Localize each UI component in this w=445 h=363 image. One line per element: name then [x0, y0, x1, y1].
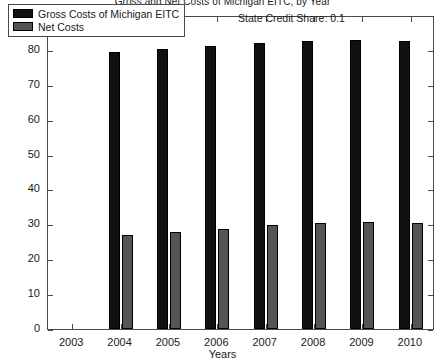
x-axis-label: Years	[0, 348, 445, 360]
chart-figure: Gross and Net Costs of Michigan EITC, by…	[0, 0, 445, 363]
x-tick-mark	[217, 324, 218, 329]
y-tick-mark	[48, 86, 53, 87]
y-tick-mark	[48, 295, 53, 296]
bar-gross-costs	[350, 40, 361, 329]
bar-net-costs	[412, 223, 423, 329]
y-tick-mark	[428, 260, 433, 261]
y-tick-label: 60	[6, 113, 40, 125]
plot-area	[47, 16, 434, 330]
legend-item-net: Net Costs	[13, 20, 179, 33]
legend-swatch-gross-icon	[13, 9, 33, 18]
y-tick-mark	[428, 295, 433, 296]
legend-swatch-net-icon	[13, 22, 33, 31]
y-tick-mark	[48, 190, 53, 191]
y-tick-label: 20	[6, 252, 40, 264]
bar-net-costs	[267, 225, 278, 329]
bar-gross-costs	[302, 41, 313, 329]
x-tick-label: 2003	[48, 336, 94, 348]
bar-net-costs	[122, 235, 133, 329]
y-tick-mark	[48, 260, 53, 261]
bar-gross-costs	[254, 43, 265, 329]
y-tick-mark	[428, 121, 433, 122]
x-tick-label: 2009	[338, 336, 384, 348]
x-tick-label: 2004	[97, 336, 143, 348]
bar-gross-costs	[205, 46, 216, 329]
y-tick-label: 70	[6, 78, 40, 90]
state-credit-share-annotation: State Credit Share: 0.1	[238, 12, 345, 24]
x-tick-mark	[217, 17, 218, 22]
y-tick-mark	[428, 16, 433, 17]
y-tick-mark	[48, 51, 53, 52]
x-tick-mark	[169, 324, 170, 329]
y-tick-mark	[428, 190, 433, 191]
y-tick-mark	[48, 330, 53, 331]
y-tick-label: 50	[6, 148, 40, 160]
legend-item-gross: Gross Costs of Michigan EITC	[13, 7, 179, 20]
x-tick-mark	[266, 324, 267, 329]
x-tick-mark	[121, 324, 122, 329]
y-tick-label: 0	[6, 322, 40, 334]
y-tick-mark	[428, 225, 433, 226]
x-tick-label: 2007	[242, 336, 288, 348]
y-tick-label: 10	[6, 287, 40, 299]
bar-net-costs	[218, 229, 229, 329]
bar-net-costs	[170, 232, 181, 329]
x-tick-mark	[411, 17, 412, 22]
y-tick-label: 30	[6, 217, 40, 229]
x-tick-mark	[362, 17, 363, 22]
y-tick-mark	[428, 156, 433, 157]
x-tick-label: 2008	[290, 336, 336, 348]
y-tick-mark	[428, 86, 433, 87]
x-tick-mark	[72, 324, 73, 329]
x-tick-mark	[314, 324, 315, 329]
chart-legend: Gross Costs of Michigan EITC Net Costs	[8, 4, 185, 37]
y-tick-mark	[428, 330, 433, 331]
bar-net-costs	[363, 222, 374, 329]
y-tick-mark	[48, 121, 53, 122]
x-tick-label: 2010	[387, 336, 433, 348]
y-tick-mark	[48, 156, 53, 157]
legend-label-net: Net Costs	[38, 21, 84, 33]
y-tick-mark	[48, 225, 53, 226]
x-tick-mark	[411, 324, 412, 329]
legend-label-gross: Gross Costs of Michigan EITC	[38, 8, 179, 20]
y-tick-label: 40	[6, 182, 40, 194]
bar-net-costs	[315, 223, 326, 329]
bar-gross-costs	[399, 41, 410, 329]
bar-gross-costs	[109, 52, 120, 329]
y-tick-mark	[428, 51, 433, 52]
y-tick-label: 80	[6, 43, 40, 55]
x-tick-label: 2006	[193, 336, 239, 348]
x-tick-mark	[362, 324, 363, 329]
x-tick-label: 2005	[145, 336, 191, 348]
bar-gross-costs	[157, 49, 168, 329]
